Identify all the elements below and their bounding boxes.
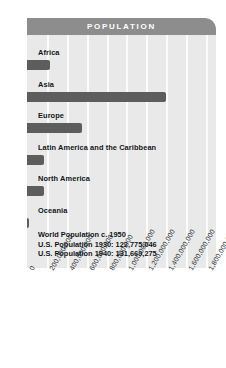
category-label: Asia [38,80,54,89]
category-label: Latin America and the Caribbean [38,143,156,152]
x-axis-tick-labels: 0200,000,000400,000,000600,000,000800,00… [0,268,226,368]
annotation-line: World Population c. 1950 [38,230,157,240]
bar [27,155,44,165]
category-label: Oceania [38,206,67,215]
category-label: Africa [38,48,60,57]
bar [27,218,29,228]
chart-screenshot: POPULATION AfricaAsiaEuropeLatin America… [0,0,226,368]
bar [27,92,166,102]
bar [27,123,82,133]
bar [27,60,50,70]
category-label: North America [38,174,90,183]
category-label: Europe [38,111,64,120]
chart-title-banner: POPULATION [27,18,216,35]
bar [27,186,44,196]
